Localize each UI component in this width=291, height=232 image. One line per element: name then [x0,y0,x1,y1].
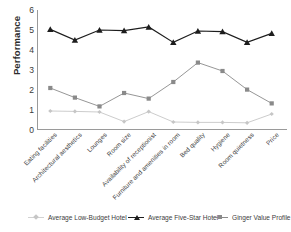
data-point-0-6 [196,120,200,124]
x-axis-label-1: Architectural aesthetics [30,131,83,184]
y-axis-tick-1: 1 [20,105,34,115]
series-1 [47,24,275,45]
data-point-1-5 [170,39,176,45]
legend-marker-square-icon [212,214,228,220]
x-axis-label-6: Bed quality [178,131,206,159]
x-axis-label-2: Lounges [85,131,108,154]
data-point-2-6 [196,61,200,65]
data-point-0-5 [171,120,175,124]
data-point-1-9 [269,30,275,36]
data-point-1-0 [47,26,53,32]
legend-item-ginger[interactable]: Ginger Value Profile [212,214,291,221]
x-axis-category-labels: Eating facilitiesArchitectural aesthetic… [38,131,288,193]
series-line-2 [50,63,271,107]
data-point-2-8 [245,88,249,92]
data-point-0-8 [245,121,249,125]
series-line-0 [50,111,271,123]
data-point-2-3 [122,91,126,95]
y-axis-tick-4: 4 [20,45,34,55]
series-layer [38,10,284,130]
legend-item-five-star[interactable]: Average Five-Star Hotel [128,214,218,221]
data-point-0-7 [220,120,224,124]
plot-area [38,10,284,130]
data-point-2-2 [97,104,101,108]
data-point-1-8 [244,39,250,45]
data-point-0-0 [48,109,52,113]
data-point-2-5 [171,80,175,84]
y-axis-tick-0: 0 [20,125,34,135]
data-point-2-4 [147,97,151,101]
legend-label-low-budget: Average Low-Budget Hotel [48,214,127,221]
legend-item-low-budget[interactable]: Average Low-Budget Hotel [28,214,127,221]
data-point-2-9 [270,101,274,105]
y-axis-tick-5: 5 [20,25,34,35]
data-point-0-2 [97,110,101,114]
y-axis-tick-6: 6 [20,5,34,15]
data-point-2-1 [73,96,77,100]
legend-marker-diamond-icon [28,214,44,220]
series-line-1 [50,27,271,42]
x-axis-label-7: Hygiene [209,131,231,153]
series-0 [48,109,274,125]
performance-line-chart: Performance 0123456 Eating facilitiesArc… [0,0,291,232]
data-point-1-1 [72,37,78,43]
legend-marker-triangle-icon [128,214,144,220]
data-point-0-1 [73,109,77,113]
data-point-2-7 [220,69,224,73]
data-point-0-4 [147,109,151,113]
chart-legend: Average Low-Budget Hotel Average Five-St… [0,207,291,227]
series-2 [48,61,274,109]
legend-label-five-star: Average Five-Star Hotel [148,214,218,221]
data-point-0-9 [270,112,274,116]
legend-label-ginger: Ginger Value Profile [232,214,291,221]
y-axis-tick-3: 3 [20,65,34,75]
x-axis-label-9: Price [264,131,279,146]
data-point-2-0 [48,86,52,90]
data-point-0-3 [122,119,126,123]
y-axis-tick-labels: 0123456 [18,10,34,130]
y-axis-tick-2: 2 [20,85,34,95]
